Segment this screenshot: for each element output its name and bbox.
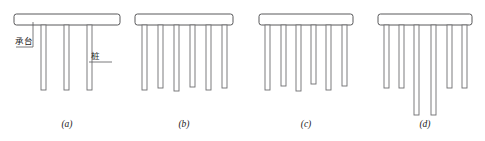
pile bbox=[462, 25, 467, 88]
group-d: (d) bbox=[378, 14, 472, 130]
pile bbox=[447, 25, 452, 88]
pile-cap-c bbox=[259, 14, 353, 25]
caption-b: (b) bbox=[178, 119, 189, 130]
pile bbox=[64, 25, 69, 90]
pile bbox=[311, 25, 316, 84]
pile-set-b bbox=[142, 25, 227, 91]
pile-set-a bbox=[41, 25, 92, 90]
caption-c: (c) bbox=[301, 119, 312, 130]
pile bbox=[399, 25, 404, 88]
pile-cap-a bbox=[14, 14, 120, 25]
pile bbox=[158, 25, 163, 88]
pile bbox=[326, 25, 331, 90]
pile-foundation-figure: (a) (b) (c) (d) 承台 桩 bbox=[0, 0, 485, 141]
caption-d: (d) bbox=[419, 119, 430, 130]
pile-cap-b bbox=[135, 14, 233, 25]
pile-set-c bbox=[265, 25, 347, 91]
pile bbox=[414, 25, 419, 115]
pile bbox=[190, 25, 195, 87]
pile-label: 桩 bbox=[91, 51, 100, 61]
pile-cap-label: 承台 bbox=[15, 36, 33, 46]
pile bbox=[265, 25, 270, 90]
pile bbox=[206, 25, 211, 90]
pile bbox=[342, 25, 347, 86]
pile bbox=[296, 25, 301, 91]
group-b: (b) bbox=[135, 14, 233, 130]
pile-cap-d bbox=[378, 14, 472, 25]
pile-foundation-diagram: (a) (b) (c) (d) 承台 桩 bbox=[0, 0, 485, 141]
group-a: (a) bbox=[14, 14, 120, 130]
pile bbox=[431, 25, 436, 115]
caption-a: (a) bbox=[61, 119, 72, 130]
group-c: (c) bbox=[259, 14, 353, 130]
pile bbox=[142, 25, 147, 90]
pile bbox=[281, 25, 286, 86]
annotation-pile-cap: 承台 bbox=[15, 22, 33, 47]
pile bbox=[222, 25, 227, 88]
pile-set-d bbox=[384, 25, 467, 115]
pile bbox=[41, 25, 46, 90]
pile bbox=[174, 25, 179, 91]
annotation-pile: 桩 bbox=[89, 51, 112, 62]
pile bbox=[384, 25, 389, 88]
